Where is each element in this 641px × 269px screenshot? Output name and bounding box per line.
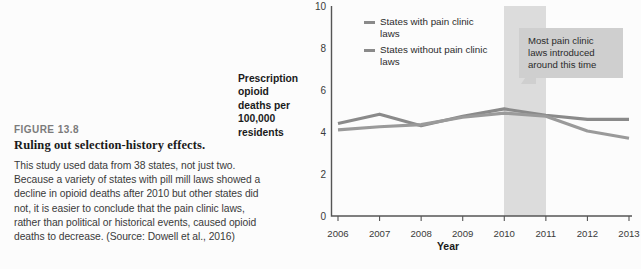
y-axis-tick-label: 6 xyxy=(320,85,326,96)
figure-caption: FIGURE 13.8 Ruling out selection-history… xyxy=(14,124,272,244)
chart: Prescription opioid deaths per 100,000 r… xyxy=(236,0,641,269)
legend-label-without-laws: States without pain clinic laws xyxy=(380,44,492,67)
legend-label-with-laws: States with pain clinic laws xyxy=(380,16,492,39)
figure-title: Ruling out selection-history effects. xyxy=(14,138,272,153)
figure-body-text: This study used data from 38 states, not… xyxy=(14,159,272,244)
y-axis-title-line-3: deaths per xyxy=(238,100,290,111)
line-series-without-laws xyxy=(338,113,629,138)
legend-item-without-laws[interactable]: States without pain clinic laws xyxy=(364,44,492,67)
legend-item-with-laws[interactable]: States with pain clinic laws xyxy=(364,16,492,39)
x-axis-title: Year xyxy=(348,240,548,252)
y-axis-tick-label: 10 xyxy=(315,1,326,12)
legend-swatch-without-laws xyxy=(364,49,375,52)
y-axis-title-line-1: Prescription xyxy=(238,73,298,84)
y-axis-tick-label: 0 xyxy=(320,211,326,222)
y-axis-tick-label: 8 xyxy=(320,43,326,54)
y-axis-title-line-2: opioid xyxy=(238,86,269,97)
y-axis-tick-label: 4 xyxy=(320,127,326,138)
y-axis-title: Prescription opioid deaths per 100,000 r… xyxy=(238,72,314,139)
chart-legend: States with pain clinic laws States with… xyxy=(364,16,492,72)
line-series-with-laws xyxy=(338,109,629,126)
callout-box: Most pain clinic laws introduced around … xyxy=(519,28,623,78)
figure-label: FIGURE 13.8 xyxy=(14,124,272,135)
callout-text: Most pain clinic laws introduced around … xyxy=(528,35,596,70)
y-axis-title-line-4: 100,000 xyxy=(238,113,275,124)
y-axis-title-line-5: residents xyxy=(238,127,284,138)
y-axis-tick-label: 2 xyxy=(320,169,326,180)
legend-swatch-with-laws xyxy=(364,21,375,24)
